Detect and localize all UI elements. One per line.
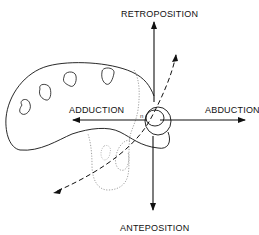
adduction-label: ADDUCTION [69,105,124,115]
knuckle-1 [20,99,31,114]
retroposition-label: RETROPOSITION [121,9,198,19]
dashed-motion-curve [55,55,176,192]
dotted-bone-small [101,145,111,160]
joint-outer-circle [145,107,171,135]
knuckle-3 [63,72,76,86]
anteposition-label: ANTEPOSITION [120,223,189,233]
diagram-svg [0,0,259,235]
knuckle-4 [102,68,114,84]
dashed-curve-top-arrowhead [172,54,178,62]
joint-inner-circle [146,110,164,126]
dotted-bone-inner [115,140,130,170]
knuckle-2 [39,84,50,100]
small-mark: n [140,113,143,119]
dashed-curve-bottom-arrowhead [53,188,62,194]
diagram-canvas: RETROPOSITION ANTEPOSITION ADDUCTION ABD… [0,0,259,235]
abduction-label: ABDUCTION [205,105,259,115]
